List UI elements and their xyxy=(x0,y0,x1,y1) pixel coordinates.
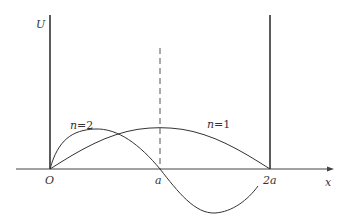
x-axis-label: x xyxy=(325,176,332,189)
curve-n2 xyxy=(50,129,258,213)
curve-n1-label: n=1 xyxy=(207,118,230,131)
curve-n2-label: n=2 xyxy=(70,119,93,132)
infinite-square-well-diagram: U x O a 2a n=2 n=1 xyxy=(0,0,345,224)
x-axis-arrow-icon xyxy=(327,167,334,172)
origin-label: O xyxy=(45,174,54,187)
tick-a-label: a xyxy=(155,174,162,187)
tick-2a-label: 2a xyxy=(262,174,277,187)
y-axis-label: U xyxy=(36,18,46,31)
